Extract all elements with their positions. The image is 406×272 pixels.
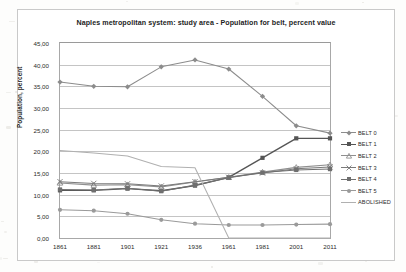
paper-speck — [1, 221, 4, 222]
paper-speck — [9, 21, 15, 22]
legend-item-belt-5[interactable]: BELT 5 — [341, 185, 393, 197]
legend: BELT 0BELT 1BELT 2BELT 3BELT 4BELT 5ABOL… — [341, 127, 393, 208]
paper-speck — [3, 258, 7, 259]
legend-swatch — [341, 176, 356, 183]
legend-item-belt-3[interactable]: BELT 3 — [341, 162, 393, 174]
paper-speck — [6, 92, 11, 93]
legend-item-belt-2[interactable]: BELT 2 — [341, 150, 393, 162]
legend-swatch — [341, 129, 356, 136]
paper-speck — [295, 2, 299, 5]
legend-label: ABOLISHED — [358, 199, 391, 205]
series-belt-0 — [57, 57, 332, 135]
legend-item-belt-1[interactable]: BELT 1 — [341, 139, 393, 151]
legend-label: BELT 3 — [358, 165, 377, 171]
series-belt-5 — [58, 208, 332, 227]
paper-speck — [126, 1, 128, 2]
legend-label: BELT 5 — [358, 188, 377, 194]
paper-speck — [0, 257, 2, 260]
paper-speck — [318, 262, 323, 265]
legend-swatch — [341, 187, 356, 194]
legend-item-abolished[interactable]: ABOLISHED — [341, 197, 393, 209]
paper-speck — [97, 262, 100, 264]
legend-swatch — [341, 141, 356, 148]
legend-swatch — [341, 164, 356, 171]
legend-item-belt-4[interactable]: BELT 4 — [341, 173, 393, 185]
legend-label: BELT 0 — [358, 130, 377, 136]
legend-label: BELT 4 — [358, 176, 377, 182]
series-layer — [18, 10, 396, 262]
legend-label: BELT 2 — [358, 153, 377, 159]
legend-swatch — [341, 199, 356, 206]
paper-speck — [4, 231, 7, 233]
legend-swatch — [341, 152, 356, 159]
legend-label: BELT 1 — [358, 141, 377, 147]
chart-card: Naples metropolitan system: study area -… — [17, 9, 395, 261]
legend-item-belt-0[interactable]: BELT 0 — [341, 127, 393, 139]
paper-speck — [362, 2, 364, 4]
paper-speck — [211, 266, 213, 269]
